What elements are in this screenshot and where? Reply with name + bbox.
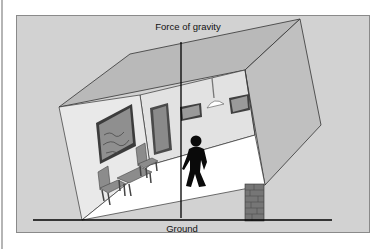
force-of-gravity-label: Force of gravity xyxy=(155,21,221,32)
ground-label: Ground xyxy=(166,223,198,234)
tilted-room-diagram: Force of gravity Ground xyxy=(0,0,377,249)
brick-support xyxy=(245,184,264,221)
